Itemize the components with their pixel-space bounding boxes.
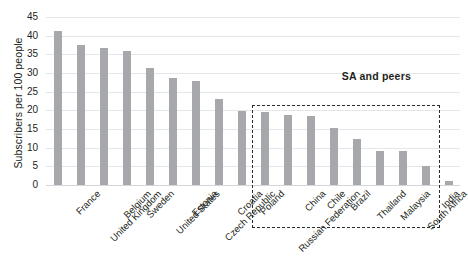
bar: [330, 128, 338, 185]
bar: [284, 115, 292, 185]
gridline: [46, 129, 460, 130]
bar: [422, 166, 430, 185]
bar: [77, 45, 85, 185]
y-axis-tick-label: 10: [16, 143, 38, 153]
x-axis-label: China: [302, 188, 327, 213]
y-axis-tick-label: 20: [16, 105, 38, 115]
plot-area: 051015202530354045: [46, 17, 460, 185]
bar: [192, 81, 200, 185]
bar: [376, 151, 384, 185]
bar: [123, 51, 131, 185]
gridline: [46, 54, 460, 55]
y-axis-tick-label: 40: [16, 31, 38, 41]
bar: [238, 111, 246, 185]
bar: [399, 151, 407, 185]
bar: [215, 99, 223, 185]
bar: [353, 139, 361, 185]
y-axis-tick-label: 45: [16, 12, 38, 22]
bar-chart-figure: Subscribers per 100 people 0510152025303…: [0, 0, 468, 272]
y-axis-tick-label: 30: [16, 68, 38, 78]
bar: [307, 116, 315, 185]
y-axis-tick-label: 25: [16, 87, 38, 97]
sa-and-peers-annotation-label: SA and peers: [342, 70, 411, 82]
bar: [54, 31, 62, 185]
x-axis-category-labels: FranceUnited KingdomBelgiumSwedenUnited …: [46, 186, 460, 272]
bar: [169, 78, 177, 185]
y-axis-tick-label: 35: [16, 49, 38, 59]
bar: [261, 112, 269, 185]
bar: [146, 68, 154, 185]
gridline: [46, 148, 460, 149]
gridline: [46, 36, 460, 37]
x-axis-label: France: [73, 188, 102, 217]
gridline: [46, 110, 460, 111]
gridline: [46, 17, 460, 18]
y-axis-tick-label: 5: [16, 161, 38, 171]
y-axis-tick-label: 15: [16, 124, 38, 134]
bar: [100, 48, 108, 185]
bar: [445, 181, 453, 185]
gridline: [46, 92, 460, 93]
y-axis-tick-label: 0: [16, 180, 38, 190]
